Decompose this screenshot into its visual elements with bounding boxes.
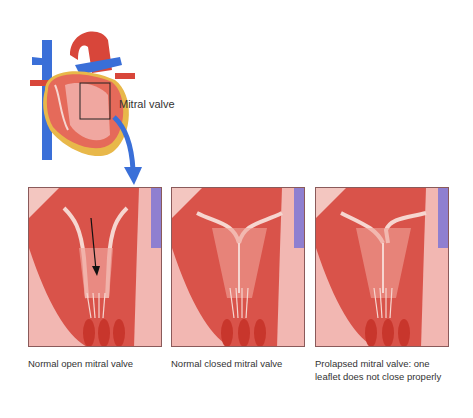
blue-curved-arrow-icon [100, 115, 150, 190]
caption-prolapsed-valve: Prolapsed mitral valve: one leaflet does… [315, 358, 445, 383]
caption-closed-valve: Normal closed mitral valve [171, 358, 301, 371]
panel-closed-valve [171, 187, 305, 347]
mitral-valve-label: Mitral valve [119, 98, 175, 110]
panel-prolapsed-valve [315, 187, 449, 347]
caption-open-valve: Normal open mitral valve [28, 358, 158, 371]
panel-open-valve [28, 187, 162, 347]
